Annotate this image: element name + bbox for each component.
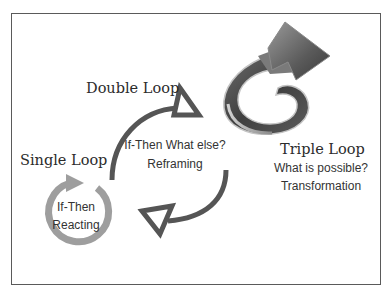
double-loop-line1: If-Then What else? bbox=[120, 138, 230, 152]
single-loop-line2: Reacting bbox=[46, 218, 106, 232]
double-loop-line2: Reframing bbox=[120, 157, 230, 171]
double-loop-lower-arc bbox=[168, 170, 226, 221]
single-loop-arrowhead bbox=[66, 174, 84, 192]
double-loop-title: Double Loop bbox=[86, 80, 179, 96]
single-loop-line1: If-Then bbox=[46, 200, 106, 214]
double-loop-lower-arrow bbox=[142, 170, 226, 234]
double-loop-lower-arrowhead bbox=[142, 206, 172, 234]
triple-loop-3d-arrow bbox=[224, 22, 330, 134]
single-loop-title: Single Loop bbox=[20, 152, 107, 168]
triple-loop-line1: What is possible? bbox=[266, 161, 376, 175]
triple-loop-line2: Transformation bbox=[266, 179, 376, 193]
triple-loop-title: Triple Loop bbox=[280, 141, 365, 157]
